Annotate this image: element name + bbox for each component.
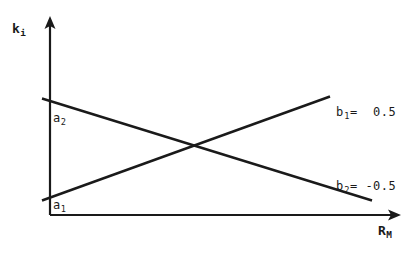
intercept-label-a1: a1 [53, 199, 66, 213]
y-axis-label-base: k [12, 21, 20, 36]
x-axis-label-subscript: M [386, 229, 392, 240]
chart-canvas [0, 0, 420, 256]
series-line-b2 [42, 99, 372, 201]
y-axis-label: ki [12, 22, 26, 37]
capm-security-market-line-figure: ki RM a2 a1 b1= 0.5 b2= -0.5 [0, 0, 420, 256]
slope-b1-base: b [336, 105, 344, 119]
slope-b2-value: = -0.5 [350, 179, 396, 193]
y-axis-label-subscript: i [20, 27, 26, 38]
intercept-label-a2: a2 [53, 112, 66, 126]
x-axis-label-base: R [378, 223, 386, 238]
intercept-a1-subscript: 1 [60, 204, 66, 214]
slope-annotation-b1: b1= 0.5 [336, 106, 396, 120]
intercept-a2-subscript: 2 [60, 117, 66, 127]
x-axis-label: RM [378, 224, 392, 239]
slope-annotation-b2: b2= -0.5 [336, 180, 396, 194]
slope-b2-base: b [336, 179, 344, 193]
slope-b1-value: = 0.5 [350, 105, 396, 119]
